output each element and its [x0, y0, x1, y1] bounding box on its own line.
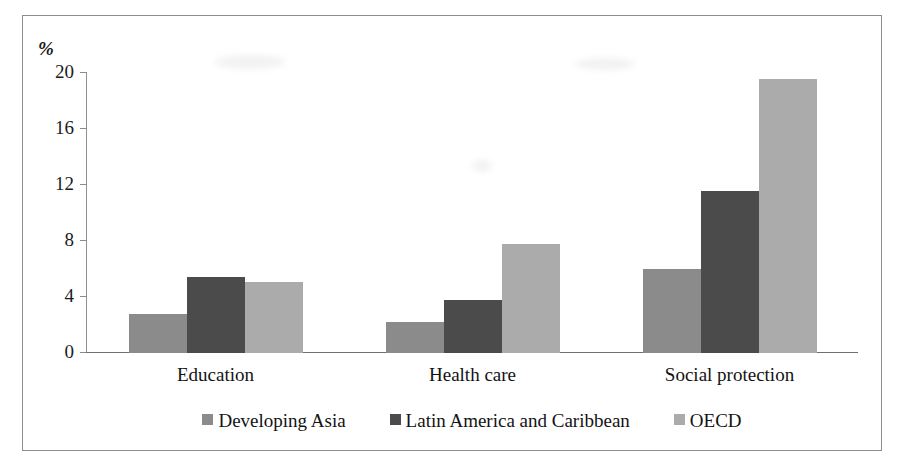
- legend-swatch-icon: [390, 414, 401, 425]
- bar: [643, 269, 701, 353]
- y-axis-tick-label: 12: [34, 174, 74, 193]
- bar: [386, 322, 444, 353]
- category-label: Education: [76, 364, 356, 386]
- legend-swatch-icon: [202, 414, 213, 425]
- bar: [502, 244, 560, 353]
- y-axis-tick-mark: [80, 128, 86, 129]
- y-axis-tick-mark: [80, 240, 86, 241]
- y-axis-tick-mark: [80, 352, 86, 353]
- bar-group: [129, 72, 303, 353]
- bar: [444, 300, 502, 353]
- chart-legend: Developing AsiaLatin America and Caribbe…: [86, 406, 858, 434]
- bar-chart: % 048121620 EducationHealth careSocial p…: [0, 0, 904, 466]
- y-axis-tick-label: 16: [34, 118, 74, 137]
- y-axis-line: [86, 72, 87, 353]
- bar: [701, 191, 759, 353]
- y-axis-tick-label: 0: [34, 342, 74, 361]
- legend-item: OECD: [674, 411, 742, 430]
- y-axis-tick-mark: [80, 296, 86, 297]
- legend-label: Developing Asia: [218, 411, 345, 430]
- y-axis-tick-mark: [80, 184, 86, 185]
- y-axis-tick-label: 4: [34, 286, 74, 305]
- bar: [245, 282, 303, 353]
- legend-item: Developing Asia: [202, 411, 345, 430]
- y-axis-tick-label: 20: [34, 62, 74, 81]
- y-axis-tick-mark: [80, 72, 86, 73]
- legend-label: OECD: [690, 411, 742, 430]
- legend-swatch-icon: [674, 414, 685, 425]
- bar: [759, 79, 817, 353]
- bar: [129, 314, 187, 353]
- category-label: Social protection: [590, 364, 870, 386]
- y-axis-tick-label: 8: [34, 230, 74, 249]
- bar: [187, 277, 245, 353]
- bar-group: [386, 72, 560, 353]
- category-label: Health care: [333, 364, 613, 386]
- legend-label: Latin America and Caribbean: [406, 411, 630, 430]
- bar-group: [643, 72, 817, 353]
- y-axis-unit-label: %: [38, 38, 54, 60]
- legend-item: Latin America and Caribbean: [390, 411, 630, 430]
